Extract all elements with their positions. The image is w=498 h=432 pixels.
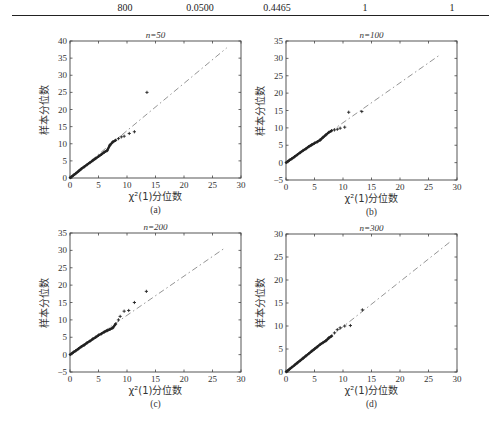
y-tick-label: 0 bbox=[63, 350, 68, 360]
y-tick-label: 35 bbox=[58, 228, 68, 238]
x-tick-label: 15 bbox=[151, 180, 161, 190]
y-tick-label: 30 bbox=[58, 70, 68, 80]
y-tick-label: 20 bbox=[274, 88, 284, 98]
data-point-marker bbox=[339, 326, 342, 329]
plot-title: n=100 bbox=[359, 30, 384, 40]
y-tick-label: −5 bbox=[273, 175, 283, 185]
plot-frame bbox=[70, 233, 241, 372]
y-tick-label: 15 bbox=[58, 122, 68, 132]
y-tick-label: 20 bbox=[58, 280, 68, 290]
y-tick-label: 40 bbox=[58, 36, 68, 46]
y-tick-label: 15 bbox=[274, 298, 284, 308]
y-axis-label: 样本分位数 bbox=[38, 278, 50, 328]
x-tick-label: 20 bbox=[396, 374, 406, 384]
data-point-marker bbox=[133, 130, 136, 133]
data-point-marker bbox=[347, 111, 350, 114]
data-point-marker bbox=[145, 91, 148, 94]
y-tick-label: 10 bbox=[58, 139, 68, 149]
data-point-marker bbox=[339, 127, 342, 130]
y-tick-label: 35 bbox=[274, 36, 284, 46]
y-axis-label: 样本分位数 bbox=[38, 85, 50, 135]
y-tick-label: 30 bbox=[274, 53, 284, 63]
x-axis-label: χ²(1)分位数 bbox=[129, 190, 183, 202]
data-point-marker bbox=[117, 137, 120, 140]
x-tick-label: 15 bbox=[151, 374, 161, 384]
data-point-marker bbox=[333, 128, 336, 131]
x-tick-label: 15 bbox=[367, 182, 377, 192]
panel-caption: (a) bbox=[150, 205, 161, 216]
x-tick-label: 10 bbox=[339, 182, 349, 192]
data-point-marker bbox=[333, 331, 336, 334]
y-tick-label: 5 bbox=[63, 332, 68, 342]
data-point-marker bbox=[349, 324, 352, 327]
x-tick-label: 10 bbox=[123, 180, 133, 190]
panel-caption: (c) bbox=[150, 399, 161, 410]
y-tick-label: 25 bbox=[58, 87, 68, 97]
y-tick-label: 20 bbox=[274, 275, 284, 285]
x-tick-label: 15 bbox=[367, 374, 377, 384]
data-point-marker bbox=[127, 309, 130, 312]
y-tick-label: 0 bbox=[279, 367, 284, 377]
x-tick-label: 20 bbox=[396, 182, 406, 192]
x-tick-label: 25 bbox=[208, 374, 218, 384]
y-tick-label: 30 bbox=[58, 245, 68, 255]
data-point-marker bbox=[336, 328, 339, 331]
plot-frame bbox=[286, 41, 457, 180]
y-tick-label: 25 bbox=[274, 252, 284, 262]
qq-plot-panel: 051015202530051015202530n=300χ²(1)分位数(d)… bbox=[254, 223, 462, 410]
x-axis-label: χ²(1)分位数 bbox=[345, 384, 399, 396]
x-tick-label: 0 bbox=[68, 180, 73, 190]
y-tick-label: 0 bbox=[63, 173, 68, 183]
x-tick-label: 0 bbox=[284, 182, 289, 192]
x-tick-label: 0 bbox=[284, 374, 289, 384]
plot-title: n=50 bbox=[146, 30, 166, 40]
plot-title: n=200 bbox=[143, 222, 168, 232]
y-tick-label: 0 bbox=[279, 158, 284, 168]
y-tick-label: 25 bbox=[58, 263, 68, 273]
x-tick-label: 10 bbox=[123, 374, 133, 384]
x-tick-label: 0 bbox=[68, 374, 73, 384]
x-tick-label: 10 bbox=[339, 374, 349, 384]
x-tick-label: 5 bbox=[312, 374, 317, 384]
data-point-marker bbox=[128, 132, 131, 135]
qq-plot-figure: 0510152025300510152025303540n=50χ²(1)分位数… bbox=[0, 0, 498, 432]
y-axis-label: 样本分位数 bbox=[254, 278, 266, 328]
panel-caption: (b) bbox=[366, 207, 377, 218]
x-tick-label: 20 bbox=[180, 374, 190, 384]
qq-plot-panel: 051015202530−505101520253035n=100χ²(1)分位… bbox=[254, 30, 462, 218]
y-tick-label: 5 bbox=[63, 156, 68, 166]
x-axis-label: χ²(1)分位数 bbox=[129, 384, 183, 396]
y-tick-label: 10 bbox=[274, 321, 284, 331]
y-tick-label: 35 bbox=[58, 53, 68, 63]
x-tick-label: 25 bbox=[424, 374, 434, 384]
y-tick-label: 15 bbox=[58, 298, 68, 308]
x-tick-label: 30 bbox=[453, 374, 463, 384]
x-tick-label: 20 bbox=[180, 180, 190, 190]
data-point-marker bbox=[343, 126, 346, 129]
data-point-marker bbox=[123, 310, 126, 313]
plot-title: n=300 bbox=[359, 223, 384, 233]
y-tick-label: 20 bbox=[58, 105, 68, 115]
y-tick-label: 5 bbox=[279, 344, 284, 354]
x-tick-label: 30 bbox=[237, 180, 247, 190]
x-axis-label: χ²(1)分位数 bbox=[345, 192, 399, 204]
y-tick-label: 15 bbox=[274, 106, 284, 116]
y-tick-label: 10 bbox=[274, 123, 284, 133]
data-point-marker bbox=[120, 135, 123, 138]
data-point-marker bbox=[123, 135, 126, 138]
y-tick-label: 25 bbox=[274, 71, 284, 81]
data-point-marker bbox=[343, 324, 346, 327]
x-tick-label: 25 bbox=[208, 180, 218, 190]
x-tick-label: 5 bbox=[96, 180, 101, 190]
data-point-marker bbox=[336, 128, 339, 131]
x-tick-label: 30 bbox=[237, 374, 247, 384]
reference-line bbox=[70, 48, 227, 178]
y-tick-label: 10 bbox=[58, 315, 68, 325]
y-tick-label: −5 bbox=[57, 367, 67, 377]
qq-plot-panel: 051015202530−505101520253035n=200χ²(1)分位… bbox=[38, 222, 246, 410]
x-tick-label: 5 bbox=[312, 182, 317, 192]
data-point-marker bbox=[133, 301, 136, 304]
x-tick-label: 25 bbox=[424, 182, 434, 192]
y-tick-label: 5 bbox=[279, 140, 284, 150]
x-tick-label: 30 bbox=[453, 182, 463, 192]
